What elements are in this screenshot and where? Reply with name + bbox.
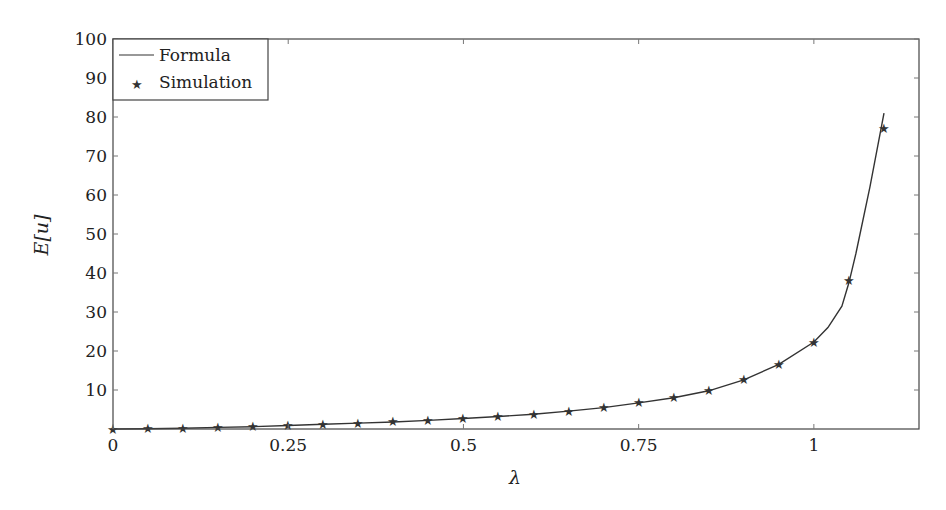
legend-label-simulation: Simulation: [159, 72, 252, 92]
x-tick-label: 1: [808, 435, 819, 455]
y-tick-label: 80: [85, 107, 107, 127]
x-axis-title: λ: [508, 466, 521, 488]
y-axis-title: E[u]: [30, 214, 52, 257]
x-tick-label: 0.75: [620, 435, 658, 455]
x-tick-label: 0.25: [269, 435, 307, 455]
simulation-star-marker: ★: [703, 383, 715, 398]
chart: ★★★★★★★★★★★★★★★★★★★★★★★ 00.250.50.751 10…: [0, 0, 946, 510]
formula-line: [113, 113, 884, 429]
simulation-star-marker: ★: [528, 407, 540, 422]
x-tick-label: 0.5: [450, 435, 477, 455]
simulation-star-marker: ★: [492, 409, 504, 424]
simulation-star-marker: ★: [633, 395, 645, 410]
simulation-star-marker: ★: [563, 404, 575, 419]
y-tick-label: 60: [85, 185, 107, 205]
y-tick-label: 100: [75, 29, 107, 49]
simulation-star-marker: ★: [598, 400, 610, 415]
x-tick-label: 0: [108, 435, 119, 455]
plot-area: ★★★★★★★★★★★★★★★★★★★★★★★: [107, 113, 890, 436]
simulation-star-marker: ★: [738, 372, 750, 387]
simulation-star-marker: ★: [457, 411, 469, 426]
simulation-star-marker: ★: [773, 357, 785, 372]
simulation-star-marker: ★: [668, 390, 680, 405]
simulation-star-marker: ★: [177, 421, 189, 436]
y-tick-label: 50: [85, 224, 107, 244]
star-marker-icon: ★: [131, 77, 143, 92]
y-tick-label: 20: [85, 341, 107, 361]
simulation-star-marker: ★: [808, 335, 820, 350]
y-tick-label: 10: [85, 380, 107, 400]
y-tick-label: 30: [85, 302, 107, 322]
simulation-star-marker: ★: [247, 419, 259, 434]
y-tick-label: 90: [85, 68, 107, 88]
simulation-star-marker: ★: [422, 413, 434, 428]
y-tick-label: 40: [85, 263, 107, 283]
simulation-star-marker: ★: [387, 414, 399, 429]
simulation-star-marker: ★: [843, 273, 855, 288]
legend: Formula ★ Simulation: [113, 39, 268, 100]
legend-label-formula: Formula: [159, 45, 231, 65]
simulation-star-marker: ★: [212, 420, 224, 435]
y-tick-label: 70: [85, 146, 107, 166]
simulation-star-marker: ★: [878, 121, 890, 136]
